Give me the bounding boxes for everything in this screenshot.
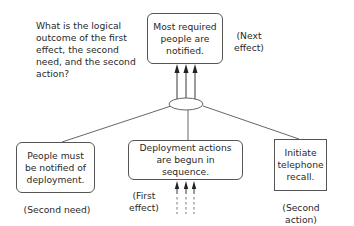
dashed-tails xyxy=(177,197,194,214)
annotation-next-effect: (Next effect) xyxy=(232,30,266,54)
question-text: What is the logical outcome of the first… xyxy=(36,20,140,80)
annotation-second-need: (Second need) xyxy=(20,204,94,216)
node-first-effect: Deployment actions are begun in sequence… xyxy=(128,140,243,180)
junction-ellipse xyxy=(169,98,203,110)
arrowheads-bottom xyxy=(175,181,196,189)
line-to-left-box xyxy=(62,106,171,142)
node-second-need: People must be notified of deployment. xyxy=(16,142,95,193)
node-second-action-text: Initiate telephone recall. xyxy=(277,147,323,183)
line-to-right-box xyxy=(203,106,299,139)
node-next-effect-text: Most required people are notified. xyxy=(152,21,218,57)
annotation-second-action: (Second action) xyxy=(265,202,337,226)
node-second-need-text: People must be notified of deployment. xyxy=(21,150,90,186)
arrowheads-top xyxy=(175,64,198,73)
annotation-first-effect: (First effect) xyxy=(127,190,161,214)
node-next-effect: Most required people are notified. xyxy=(147,13,223,64)
node-second-action: Initiate telephone recall. xyxy=(274,139,327,191)
node-first-effect-text: Deployment actions are begun in sequence… xyxy=(133,142,238,178)
